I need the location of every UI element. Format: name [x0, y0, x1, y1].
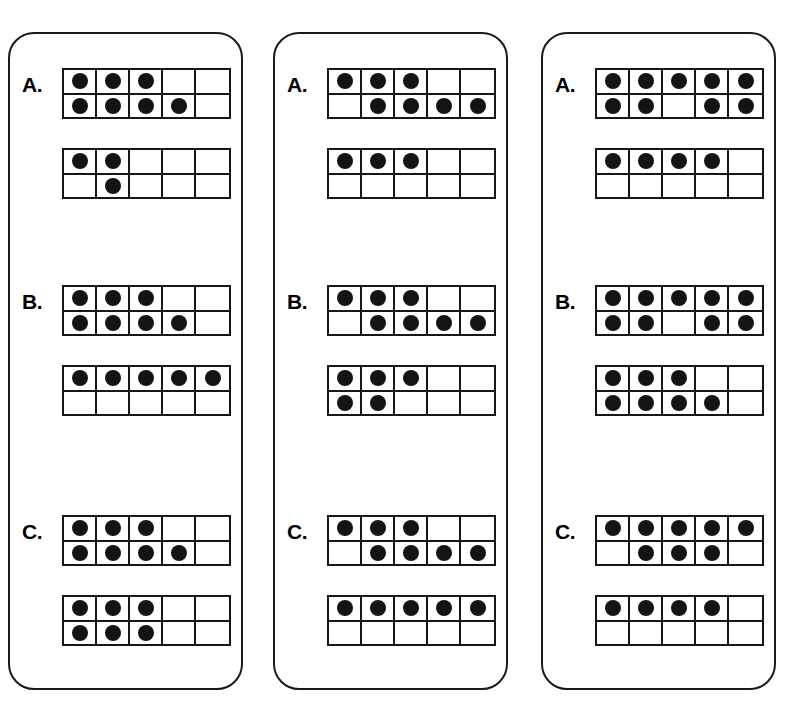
ten-frame-cell-empty[interactable]	[729, 542, 762, 565]
ten-frame-cell-empty[interactable]	[163, 70, 196, 93]
ten-frame-cell-filled[interactable]	[597, 287, 630, 310]
ten-frame-cell-empty[interactable]	[196, 392, 229, 415]
ten-frame-cell-empty[interactable]	[428, 287, 461, 310]
ten-frame-cell-filled[interactable]	[97, 622, 130, 645]
ten-frame-cell-empty[interactable]	[329, 622, 362, 645]
ten-frame-cell-filled[interactable]	[130, 622, 163, 645]
ten-frame-cell-filled[interactable]	[362, 70, 395, 93]
ten-frame-cell-empty[interactable]	[428, 392, 461, 415]
ten-frame-cell-empty[interactable]	[163, 287, 196, 310]
ten-frame-cell-filled[interactable]	[97, 542, 130, 565]
ten-frame-cell-filled[interactable]	[362, 312, 395, 335]
ten-frame-cell-filled[interactable]	[395, 70, 428, 93]
ten-frame-cell-filled[interactable]	[97, 367, 130, 390]
ten-frame-cell-empty[interactable]	[461, 392, 494, 415]
ten-frame-cell-filled[interactable]	[395, 597, 428, 620]
ten-frame-cell-empty[interactable]	[163, 392, 196, 415]
ten-frame-cell-filled[interactable]	[329, 150, 362, 173]
ten-frame-cell-empty[interactable]	[597, 622, 630, 645]
ten-frame-cell-filled[interactable]	[97, 70, 130, 93]
ten-frame-cell-filled[interactable]	[597, 150, 630, 173]
ten-frame-cell-filled[interactable]	[362, 95, 395, 118]
ten-frame-cell-filled[interactable]	[130, 95, 163, 118]
ten-frame-cell-filled[interactable]	[97, 287, 130, 310]
ten-frame-cell-filled[interactable]	[729, 517, 762, 540]
ten-frame-cell-filled[interactable]	[329, 70, 362, 93]
ten-frame-cell-empty[interactable]	[163, 597, 196, 620]
ten-frame-cell-filled[interactable]	[597, 95, 630, 118]
ten-frame-cell-filled[interactable]	[395, 312, 428, 335]
ten-frame-cell-filled[interactable]	[630, 392, 663, 415]
ten-frame-cell-filled[interactable]	[696, 70, 729, 93]
ten-frame-cell-filled[interactable]	[362, 287, 395, 310]
ten-frame-cell-filled[interactable]	[130, 542, 163, 565]
ten-frame-cell-filled[interactable]	[329, 367, 362, 390]
ten-frame-cell-empty[interactable]	[329, 542, 362, 565]
ten-frame-cell-filled[interactable]	[461, 312, 494, 335]
ten-frame-cell-empty[interactable]	[97, 392, 130, 415]
ten-frame-cell-empty[interactable]	[163, 517, 196, 540]
ten-frame-cell-filled[interactable]	[362, 517, 395, 540]
ten-frame-cell-empty[interactable]	[461, 70, 494, 93]
ten-frame-cell-empty[interactable]	[729, 175, 762, 198]
ten-frame-cell-empty[interactable]	[696, 175, 729, 198]
ten-frame-cell-filled[interactable]	[97, 517, 130, 540]
ten-frame-cell-empty[interactable]	[663, 95, 696, 118]
ten-frame-cell-filled[interactable]	[163, 95, 196, 118]
ten-frame-cell-empty[interactable]	[461, 175, 494, 198]
ten-frame-cell-filled[interactable]	[395, 542, 428, 565]
ten-frame-cell-filled[interactable]	[395, 150, 428, 173]
ten-frame-cell-empty[interactable]	[196, 312, 229, 335]
ten-frame-cell-filled[interactable]	[597, 312, 630, 335]
ten-frame-cell-filled[interactable]	[130, 517, 163, 540]
ten-frame-cell-empty[interactable]	[329, 175, 362, 198]
ten-frame-cell-empty[interactable]	[130, 175, 163, 198]
ten-frame-cell-filled[interactable]	[130, 597, 163, 620]
ten-frame-cell-filled[interactable]	[630, 312, 663, 335]
ten-frame-cell-empty[interactable]	[663, 622, 696, 645]
ten-frame-cell-empty[interactable]	[196, 622, 229, 645]
ten-frame-cell-empty[interactable]	[362, 622, 395, 645]
ten-frame-cell-filled[interactable]	[696, 150, 729, 173]
ten-frame-cell-filled[interactable]	[597, 367, 630, 390]
ten-frame-cell-filled[interactable]	[597, 597, 630, 620]
ten-frame-cell-filled[interactable]	[362, 150, 395, 173]
ten-frame-cell-filled[interactable]	[362, 597, 395, 620]
ten-frame-cell-empty[interactable]	[196, 95, 229, 118]
ten-frame-cell-filled[interactable]	[597, 517, 630, 540]
ten-frame-cell-filled[interactable]	[362, 392, 395, 415]
ten-frame-cell-empty[interactable]	[163, 175, 196, 198]
ten-frame-cell-filled[interactable]	[395, 517, 428, 540]
ten-frame-cell-empty[interactable]	[196, 175, 229, 198]
ten-frame-cell-filled[interactable]	[130, 312, 163, 335]
ten-frame-cell-empty[interactable]	[395, 392, 428, 415]
ten-frame-cell-filled[interactable]	[663, 392, 696, 415]
ten-frame-cell-filled[interactable]	[329, 392, 362, 415]
ten-frame-cell-empty[interactable]	[196, 150, 229, 173]
ten-frame-cell-filled[interactable]	[696, 542, 729, 565]
ten-frame-cell-empty[interactable]	[729, 392, 762, 415]
ten-frame-cell-filled[interactable]	[64, 597, 97, 620]
ten-frame-cell-filled[interactable]	[97, 150, 130, 173]
ten-frame-cell-empty[interactable]	[461, 622, 494, 645]
ten-frame-cell-filled[interactable]	[696, 392, 729, 415]
ten-frame-cell-filled[interactable]	[362, 367, 395, 390]
ten-frame-cell-filled[interactable]	[362, 542, 395, 565]
ten-frame-cell-filled[interactable]	[163, 367, 196, 390]
ten-frame-cell-empty[interactable]	[729, 622, 762, 645]
ten-frame-cell-empty[interactable]	[196, 542, 229, 565]
ten-frame-cell-filled[interactable]	[663, 287, 696, 310]
ten-frame-cell-empty[interactable]	[729, 150, 762, 173]
ten-frame-cell-filled[interactable]	[630, 597, 663, 620]
ten-frame-cell-empty[interactable]	[729, 597, 762, 620]
ten-frame-cell-filled[interactable]	[663, 150, 696, 173]
ten-frame-cell-filled[interactable]	[696, 517, 729, 540]
ten-frame-cell-filled[interactable]	[597, 70, 630, 93]
ten-frame-cell-empty[interactable]	[696, 622, 729, 645]
ten-frame-cell-filled[interactable]	[428, 597, 461, 620]
ten-frame-cell-filled[interactable]	[696, 95, 729, 118]
ten-frame-cell-empty[interactable]	[461, 367, 494, 390]
ten-frame-cell-empty[interactable]	[428, 175, 461, 198]
ten-frame-cell-filled[interactable]	[630, 367, 663, 390]
ten-frame-cell-filled[interactable]	[395, 95, 428, 118]
